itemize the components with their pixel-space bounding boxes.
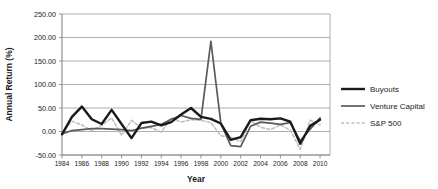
y-tick-label: 200.00	[34, 33, 56, 42]
x-tick-label: 1992	[134, 160, 149, 167]
x-tick-label: 1990	[114, 160, 129, 167]
y-tick-label: 150.00	[34, 57, 56, 66]
legend-label-s-p-500[interactable]: S&P 500	[370, 119, 402, 128]
x-tick-label: 2006	[273, 160, 288, 167]
x-axis-title: Year	[187, 174, 206, 184]
x-tick-label: 1998	[194, 160, 209, 167]
x-tick-label: 1988	[94, 160, 109, 167]
annual-return-line-chart: -50.000.0050.00100.00150.00200.00250.001…	[0, 0, 438, 189]
y-tick-label: 250.00	[34, 10, 56, 19]
x-tick-label: 2004	[253, 160, 268, 167]
chart-container: -50.000.0050.00100.00150.00200.00250.001…	[0, 0, 438, 189]
y-axis-title: Annual Return (%)	[4, 47, 14, 121]
x-tick-label: 2000	[213, 160, 228, 167]
y-tick-label: 50.00	[38, 104, 56, 113]
x-tick-label: 1986	[75, 160, 90, 167]
x-tick-label: 1994	[154, 160, 169, 167]
x-tick-label: 2010	[313, 160, 328, 167]
x-tick-label: 1996	[174, 160, 189, 167]
series-line-venture-capital	[62, 41, 320, 146]
y-tick-label: 0.00	[42, 127, 56, 136]
legend-label-buyouts[interactable]: Buyouts	[370, 85, 399, 94]
x-tick-label: 2002	[233, 160, 248, 167]
y-tick-label: 100.00	[34, 80, 56, 89]
x-tick-label: 1984	[55, 160, 70, 167]
legend-label-venture-capital[interactable]: Venture Capital	[370, 102, 425, 111]
y-tick-label: -50.00	[36, 151, 56, 160]
x-tick-label: 2008	[293, 160, 308, 167]
